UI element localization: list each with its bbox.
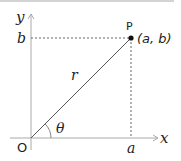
origin-label: O <box>17 140 27 155</box>
point-p-label: P <box>126 20 133 33</box>
radius-line <box>31 38 131 138</box>
b-label: b <box>17 30 26 46</box>
point-p-dot <box>128 35 133 40</box>
x-axis-label: x <box>160 129 169 147</box>
radius-label: r <box>71 67 79 83</box>
point-coords-label: (a, b) <box>137 31 172 46</box>
polar-coordinate-diagram: y b P (a, b) r θ O a x <box>0 0 181 161</box>
angle-arc <box>45 124 51 138</box>
y-axis-label: y <box>15 8 25 26</box>
angle-theta-label: θ <box>56 120 65 136</box>
a-label: a <box>127 140 135 156</box>
diagram-canvas: y b P (a, b) r θ O a x <box>0 0 181 161</box>
